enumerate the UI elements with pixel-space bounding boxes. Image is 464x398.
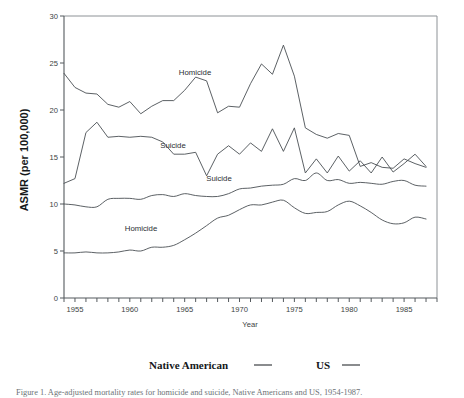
plot-frame-border — [64, 16, 437, 298]
series-line-us-suicide — [64, 173, 426, 207]
x-tick-label: 1960 — [121, 305, 138, 314]
y-tick-label: 15 — [50, 153, 58, 162]
x-tick-label: 1985 — [396, 305, 413, 314]
y-axis-ticks: 051015202530 — [50, 12, 64, 303]
legend-item-native-american-label: Native American — [149, 359, 228, 371]
series-label-na-homicide: Homicide — [179, 68, 212, 77]
y-tick-label: 25 — [50, 59, 58, 68]
data-series-group — [64, 45, 426, 253]
asmr-line-chart: 051015202530 195519601965197019751980198… — [0, 0, 464, 398]
figure-caption-strip: Figure 1. Age-adjusted mortality rates f… — [0, 389, 464, 398]
x-axis-ticks: 1955196019651970197519801985 — [64, 298, 437, 314]
plot-frame — [64, 16, 437, 298]
y-tick-label: 0 — [54, 294, 58, 303]
x-tick-label: 1955 — [67, 305, 84, 314]
series-line-us-homicide — [64, 200, 426, 253]
y-tick-label: 5 — [54, 247, 58, 256]
series-label-us-suicide: Suicide — [206, 174, 232, 183]
y-tick-label: 20 — [50, 106, 58, 115]
legend-item-us-label: US — [316, 359, 330, 371]
figure-caption: Figure 1. Age-adjusted mortality rates f… — [16, 389, 362, 397]
figure-panel: 051015202530 195519601965197019751980198… — [0, 0, 464, 398]
series-label-us-homicide: Homicide — [125, 224, 158, 233]
chart-legend: Native American US — [149, 359, 360, 371]
y-tick-label: 30 — [50, 12, 58, 21]
y-tick-label: 10 — [50, 200, 58, 209]
x-tick-label: 1965 — [176, 305, 193, 314]
y-axis-title: ASMR (per 100,000) — [18, 108, 30, 211]
x-tick-label: 1970 — [231, 305, 248, 314]
series-label-na-suicide: Suicide — [160, 141, 186, 150]
x-tick-label: 1980 — [341, 305, 358, 314]
x-tick-label: 1975 — [286, 305, 303, 314]
x-axis-title: Year — [242, 320, 258, 329]
series-line-native-american-homicide — [64, 45, 426, 168]
series-line-native-american-suicide — [64, 122, 426, 183]
